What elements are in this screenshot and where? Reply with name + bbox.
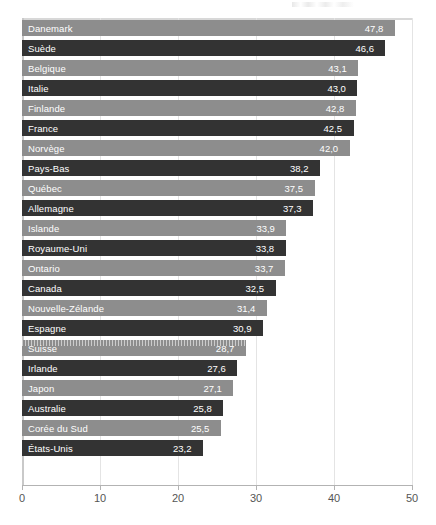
plot-area: Danemark47,8Suède46,6Belgique43,1Italie4…	[22, 18, 412, 485]
bar-value-label: 43,1	[328, 63, 347, 74]
gridline	[412, 18, 413, 485]
x-axis-tick-label: 20	[172, 492, 184, 504]
bar-value-label: 43,0	[327, 83, 346, 94]
bar-category-label: France	[28, 123, 58, 134]
bar	[22, 20, 395, 36]
bar-row: Irlande27,6	[22, 358, 412, 378]
bar-row: Suède46,6	[22, 38, 412, 58]
bar-row: Japon27,1	[22, 378, 412, 398]
bar-row: Espagne30,9	[22, 318, 412, 338]
bar	[22, 140, 350, 156]
bar-category-label: Finlande	[28, 103, 65, 114]
bar-row: Ontario33,7	[22, 258, 412, 278]
bar-row: Allemagne37,3	[22, 198, 412, 218]
bar-value-label: 47,8	[365, 23, 384, 34]
x-axis-line	[22, 485, 412, 486]
bar-row: Corée du Sud25,5	[22, 418, 412, 438]
bar-row: Finlande42,8	[22, 98, 412, 118]
bar-value-label: 27,1	[203, 383, 222, 394]
x-axis-tick	[100, 485, 101, 490]
bar-value-label: 33,9	[256, 223, 275, 234]
bar-category-label: Québec	[28, 183, 62, 194]
bar	[22, 220, 286, 236]
bar-category-label: Pays-Bas	[28, 163, 69, 174]
bar-value-label: 28,7	[216, 343, 235, 354]
bar-value-label: 42,5	[324, 123, 343, 134]
bar-row: Royaume-Uni33,8	[22, 238, 412, 258]
bar-value-label: 32,5	[246, 283, 265, 294]
x-axis-tick-label: 10	[94, 492, 106, 504]
x-axis-tick	[412, 485, 413, 490]
bar-value-label: 27,6	[207, 363, 226, 374]
bar-value-label: 31,4	[237, 303, 256, 314]
bar-category-label: Canada	[28, 283, 62, 294]
bar-category-label: Japon	[28, 383, 54, 394]
bar	[22, 60, 358, 76]
bar-row: Pays-Bas38,2	[22, 158, 412, 178]
x-axis-tick	[256, 485, 257, 490]
bar	[22, 180, 315, 196]
bar	[22, 260, 285, 276]
bar-category-label: Islande	[28, 223, 59, 234]
bar-row: Norvège42,0	[22, 138, 412, 158]
x-axis-tick-label: 0	[19, 492, 25, 504]
bar-category-label: Danemark	[28, 23, 73, 34]
bar-value-label: 46,6	[355, 43, 374, 54]
x-axis-tick	[334, 485, 335, 490]
bar-category-label: Espagne	[28, 323, 66, 334]
x-axis-tick	[22, 485, 23, 490]
x-axis-tick	[178, 485, 179, 490]
x-axis-tick-label: 50	[406, 492, 418, 504]
bar	[22, 120, 354, 136]
bar-row: Nouvelle-Zélande31,4	[22, 298, 412, 318]
bar-category-label: Italie	[28, 83, 49, 94]
bar-value-label: 25,8	[193, 403, 212, 414]
bar-value-label: 23,2	[173, 443, 192, 454]
bar-category-label: États-Unis	[28, 443, 73, 454]
bar-category-label: Suède	[28, 43, 56, 54]
bar-value-label: 30,9	[233, 323, 252, 334]
horizontal-bar-chart: Danemark47,8Suède46,6Belgique43,1Italie4…	[0, 0, 436, 525]
bar-category-label: Nouvelle-Zélande	[28, 303, 104, 314]
bar-value-label: 37,5	[285, 183, 304, 194]
x-axis: 01020304050	[22, 485, 412, 525]
bar-series: Danemark47,8Suède46,6Belgique43,1Italie4…	[22, 18, 412, 485]
bar-value-label: 33,7	[255, 263, 274, 274]
bar-row: Italie43,0	[22, 78, 412, 98]
bar-category-label: Corée du Sud	[28, 423, 88, 434]
bar-row: Canada32,5	[22, 278, 412, 298]
bar	[22, 40, 385, 56]
bar-category-label: Allemagne	[28, 203, 74, 214]
bar-row: Belgique43,1	[22, 58, 412, 78]
bar-value-label: 37,3	[283, 203, 302, 214]
bar	[22, 100, 356, 116]
bar-row: France42,5	[22, 118, 412, 138]
bar-category-label: Irlande	[28, 363, 58, 374]
bar-value-label: 33,8	[256, 243, 275, 254]
bar-row: Australie25,8	[22, 398, 412, 418]
x-axis-tick-label: 40	[328, 492, 340, 504]
bar-category-label: Suisse	[28, 343, 57, 354]
bar	[22, 80, 357, 96]
bar-value-label: 38,2	[290, 163, 309, 174]
x-axis-tick-label: 30	[250, 492, 262, 504]
bar-value-label: 25,5	[191, 423, 210, 434]
bar-category-label: Royaume-Uni	[28, 243, 87, 254]
bar-value-label: 42,0	[320, 143, 339, 154]
bar-row: Suisse28,7	[22, 338, 412, 358]
bar-row: États-Unis23,2	[22, 438, 412, 458]
bar-row: Islande33,9	[22, 218, 412, 238]
bar-category-label: Ontario	[28, 263, 60, 274]
bar-category-label: Australie	[28, 403, 66, 414]
bar-row: Québec37,5	[22, 178, 412, 198]
bar-value-label: 42,8	[326, 103, 345, 114]
bar-row: Danemark47,8	[22, 18, 412, 38]
bar-category-label: Belgique	[28, 63, 66, 74]
bar-category-label: Norvège	[28, 143, 65, 154]
scan-artifact	[292, 2, 354, 7]
